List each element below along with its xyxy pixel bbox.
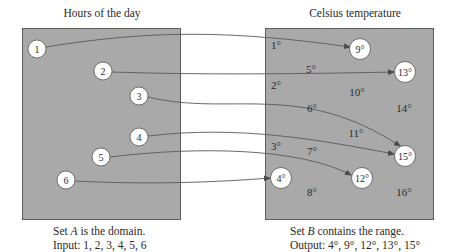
svg-text:15°: 15° <box>398 151 412 162</box>
value-14: 14° <box>396 102 411 114</box>
svg-text:1: 1 <box>35 44 40 55</box>
mapping-diagram: 1 2 3 4 5 6 9° 13° 15° 12° 4° 1° 5° 2° 1… <box>0 0 454 252</box>
range-element-13: 13° <box>395 62 416 83</box>
domain-element-1: 1 <box>28 40 46 58</box>
value-11: 11° <box>349 127 364 139</box>
value-8: 8° <box>307 186 317 198</box>
value-1: 1° <box>271 39 281 51</box>
arrow-1-to-9 <box>46 34 350 47</box>
domain-caption-line1: Set A is the domain. <box>53 224 147 238</box>
range-element-4: 4° <box>271 168 292 189</box>
range-caption-line1: Set B contains the range. <box>290 224 420 238</box>
range-element-12: 12° <box>352 168 373 189</box>
range-uncircled-values: 1° 5° 2° 10° 6° 14° 11° 3° 7° 8° 16° <box>271 39 412 198</box>
range-circled-elements: 9° 13° 15° 12° 4° <box>271 39 416 189</box>
svg-text:12°: 12° <box>355 173 369 184</box>
arrow-6-to-4 <box>75 178 270 183</box>
range-caption-line2: Output: 4°, 9°, 12°, 13°, 15° <box>290 238 420 252</box>
domain-element-2: 2 <box>94 62 112 80</box>
svg-text:2: 2 <box>101 66 106 77</box>
domain-element-4: 4 <box>130 128 148 146</box>
svg-text:6: 6 <box>64 175 69 186</box>
domain-caption: Set A is the domain. Input: 1, 2, 3, 4, … <box>53 224 147 252</box>
domain-elements: 1 2 3 4 5 6 <box>28 40 148 189</box>
domain-element-3: 3 <box>130 87 148 105</box>
svg-text:5: 5 <box>99 152 104 163</box>
domain-element-6: 6 <box>57 171 75 189</box>
svg-text:13°: 13° <box>398 67 412 78</box>
value-2: 2° <box>271 79 281 91</box>
value-3: 3° <box>271 140 281 152</box>
range-element-9: 9° <box>350 39 371 60</box>
value-7: 7° <box>307 145 317 157</box>
value-10: 10° <box>349 86 364 98</box>
svg-text:4: 4 <box>137 132 142 143</box>
svg-text:3: 3 <box>137 91 142 102</box>
svg-text:4°: 4° <box>277 173 286 184</box>
range-caption: Set B contains the range. Output: 4°, 9°… <box>290 224 420 252</box>
domain-element-5: 5 <box>92 148 110 166</box>
value-6: 6° <box>307 102 317 114</box>
domain-caption-line2: Input: 1, 2, 3, 4, 5, 6 <box>53 238 147 252</box>
range-element-15: 15° <box>395 146 416 167</box>
arrow-2-to-13 <box>112 72 394 74</box>
value-16: 16° <box>396 186 411 198</box>
svg-text:9°: 9° <box>356 44 365 55</box>
value-5: 5° <box>306 63 316 75</box>
